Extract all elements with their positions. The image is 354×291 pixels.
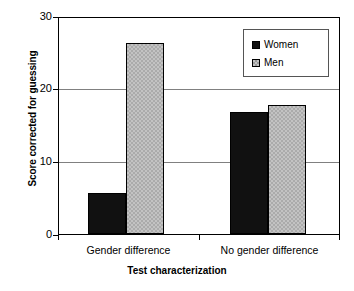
y-tick-label-20: 20	[26, 83, 52, 94]
x-tick-mark-left	[58, 235, 59, 240]
legend-swatch-women-icon	[252, 41, 260, 49]
x-axis-title: Test characterization	[0, 265, 354, 276]
legend-label-men: Men	[264, 58, 283, 68]
bar-women-gender-difference	[88, 193, 126, 234]
x-category-label-gender-difference: Gender difference	[58, 245, 199, 256]
bar-men-no-gender-difference	[268, 105, 306, 234]
legend-item-women: Women	[252, 36, 328, 54]
x-category-label-no-gender-difference: No gender difference	[199, 245, 340, 256]
y-tick-label-30: 30	[26, 11, 52, 22]
legend: Women Men	[243, 29, 329, 77]
bar-chart-figure: Score corrected for guessing 30 20 10 0 …	[0, 0, 354, 291]
legend-swatch-men-icon	[252, 59, 260, 67]
gridline-20	[59, 89, 339, 90]
x-tick-mark-right	[339, 235, 340, 240]
y-tick-label-0: 0	[26, 229, 52, 240]
y-axis-title: Score corrected for guessing	[27, 9, 38, 229]
bar-men-gender-difference	[126, 43, 164, 234]
bar-women-no-gender-difference	[230, 112, 268, 234]
y-tick-label-10: 10	[26, 156, 52, 167]
legend-label-women: Women	[264, 40, 298, 50]
x-tick-mark-middle	[199, 235, 200, 240]
legend-item-men: Men	[252, 54, 328, 72]
